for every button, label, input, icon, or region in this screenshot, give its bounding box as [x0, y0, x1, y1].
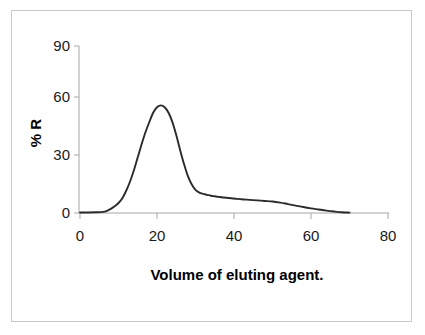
chart-screenshot: 0 30 60 90 0 20 40 60 80 % R Volume of e… [0, 0, 425, 335]
x-tick-label-20: 20 [149, 227, 166, 244]
y-tick-label-30: 30 [53, 146, 70, 163]
x-tick-label-0: 0 [76, 227, 84, 244]
y-tick-label-0: 0 [62, 204, 70, 221]
y-tick-label-60: 60 [53, 88, 70, 105]
x-tick-label-40: 40 [226, 227, 243, 244]
elution-curve [80, 105, 350, 212]
y-tick-label-90: 90 [53, 37, 70, 54]
x-tick-marks [80, 213, 388, 219]
x-tick-label-60: 60 [303, 227, 320, 244]
y-tick-marks [74, 46, 79, 213]
x-axis-title: Volume of eluting agent. [150, 266, 323, 283]
x-tick-label-80: 80 [380, 227, 397, 244]
plot-area: 0 30 60 90 0 20 40 60 80 % R Volume of e… [0, 0, 425, 335]
line-chart: 0 30 60 90 0 20 40 60 80 % R Volume of e… [0, 0, 425, 335]
y-axis-title: % R [27, 119, 44, 148]
